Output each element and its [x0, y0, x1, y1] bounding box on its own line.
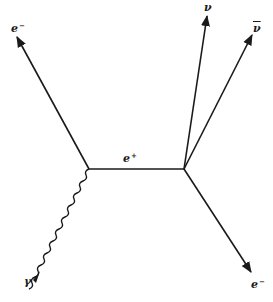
electron-line-bottom-right — [184, 169, 251, 272]
label-photon: γ — [24, 276, 31, 287]
label-electron-out: e− — [251, 278, 265, 290]
label-neutrino: ν — [204, 2, 212, 13]
label-antineutrino: ν — [253, 23, 261, 34]
electron-line-top-left — [17, 37, 89, 169]
feynman-diagram: e− e+ γ ν ν e− — [0, 0, 273, 302]
label-electron-in: e− — [11, 22, 25, 34]
label-positron: e+ — [123, 152, 137, 164]
photon-wavy-line — [29, 169, 89, 289]
